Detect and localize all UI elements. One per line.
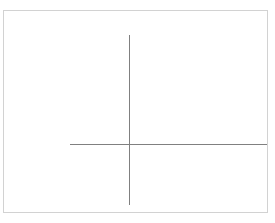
screenshot-canvas bbox=[0, 0, 275, 223]
crosshair-vertical-line bbox=[129, 35, 130, 205]
plot-area[interactable] bbox=[3, 10, 268, 213]
crosshair-horizontal-line bbox=[70, 144, 267, 145]
